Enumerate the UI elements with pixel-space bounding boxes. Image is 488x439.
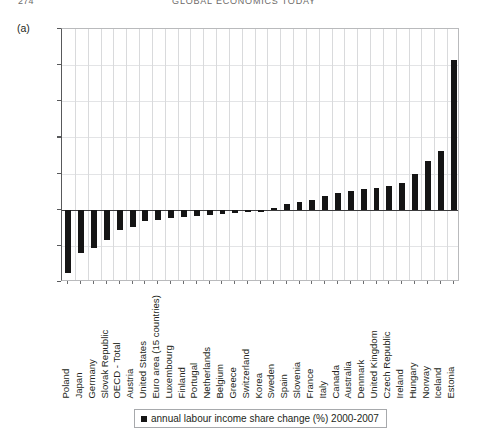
bar [168,210,174,218]
bar [361,189,367,210]
x-axis-tick-mark [350,281,351,284]
bar [399,183,405,210]
x-axis-category-label: Germany [87,360,97,399]
bar [284,204,290,209]
x-axis-tick-mark [324,281,325,284]
y-axis: -4-20246810 [0,0,61,439]
bar [386,186,392,209]
x-axis-category-label: Luxembourg [164,346,174,399]
bar [117,210,123,230]
bar [412,174,418,210]
x-axis-category-label: Switzerland [241,349,251,399]
x-axis-tick-mark [376,281,377,284]
x-axis-tick-mark [67,281,68,284]
x-axis-tick-mark [440,281,441,284]
bar [65,210,71,273]
bar [220,210,226,215]
bar [181,210,187,217]
x-axis-category-labels: PolandJapanGermanySlovak RepublicOECD - … [61,284,459,399]
x-axis-tick-mark [183,281,184,284]
x-axis-tick-mark [453,281,454,284]
plot-area [61,28,459,281]
x-axis-tick-mark [170,281,171,284]
x-axis-tick-mark [209,281,210,284]
bar [309,200,315,210]
x-axis-category-label: Korea [254,373,264,399]
x-axis-category-label: Greece [228,368,238,399]
x-axis-category-label: Iceland [434,368,444,399]
bar [271,208,277,210]
bar [232,210,238,214]
x-axis-tick-mark [221,281,222,284]
x-axis-tick-mark [414,281,415,284]
x-axis-tick-mark [247,281,248,284]
bar [194,210,200,216]
x-axis-tick-mark [311,281,312,284]
x-axis-category-label: Norway [421,366,431,399]
bar [245,210,251,213]
x-axis-category-label: Japan [74,373,84,399]
legend-square-icon [141,416,147,422]
bar [322,196,328,210]
x-axis-category-label: Denmark [357,360,367,399]
bar-series [62,29,458,280]
x-axis-category-label: Australia [344,362,354,399]
x-axis-tick-mark [427,281,428,284]
bar [142,210,148,221]
x-axis-category-label: United States [138,341,148,399]
bar [78,210,84,253]
bar [104,210,110,241]
x-axis-tick-mark [93,281,94,284]
x-axis-category-label: OECD - Total [113,343,123,399]
x-axis-category-label: Belgium [215,364,225,399]
bar [425,161,431,210]
x-axis-tick-mark [273,281,274,284]
x-axis-category-label: United Kingdom [370,331,380,399]
x-axis-tick-mark [144,281,145,284]
x-axis-category-label: Slovenia [293,362,303,399]
x-axis-category-label: Hungary [408,363,418,399]
bar [335,193,341,210]
x-axis-category-label: Estonia [447,367,457,399]
bar [207,210,213,215]
x-axis-category-label: Slovak Republic [100,330,110,399]
bar [374,188,380,210]
legend-label: annual labour income share change (%) 20… [151,413,379,424]
x-axis-category-label: Netherlands [203,347,213,399]
x-axis-category-label: Czech Republic [382,332,392,399]
x-axis-tick-mark [234,281,235,284]
bar [258,210,264,212]
x-axis-category-label: Austria [126,369,136,399]
bar [451,60,457,210]
x-axis-category-label: Portugal [190,363,200,399]
x-axis-tick-mark [337,281,338,284]
x-axis-tick-mark [363,281,364,284]
x-axis-category-label: Euro area (15 countries) [151,296,161,399]
x-axis-tick-mark [401,281,402,284]
x-axis-category-label: Italy [318,381,328,399]
bar [91,210,97,248]
x-axis-category-label: France [305,369,315,399]
x-axis-tick-mark [132,281,133,284]
x-axis-tick-mark [388,281,389,284]
x-axis-tick-mark [106,281,107,284]
x-axis-category-label: Sweden [267,364,277,399]
x-axis-tick-mark [157,281,158,284]
chart-legend: annual labour income share change (%) 20… [134,409,387,428]
x-axis-tick-mark [119,281,120,284]
bar [438,151,444,210]
bar [297,202,303,209]
x-axis-category-label: Finland [177,368,187,399]
x-axis-category-label: Ireland [395,370,405,399]
bar [130,210,136,227]
bar [155,210,161,220]
x-axis-tick-mark [196,281,197,284]
figure-panel-a: (a) -4-20246810 PolandJapanGermanySlovak… [0,0,488,439]
x-axis-category-label: Poland [61,369,71,399]
x-axis-tick-mark [299,281,300,284]
x-axis-category-label: Canada [331,365,341,399]
x-axis-tick-mark [286,281,287,284]
x-axis-tick-mark [80,281,81,284]
bar [348,191,354,210]
y-axis-tick-mark [57,281,61,282]
